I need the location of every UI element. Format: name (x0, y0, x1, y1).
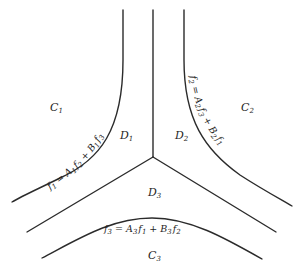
region-diagram: C1 C2 C3 D1 D2 D3 f1 = A1f2 + B1f3 f2 = … (0, 0, 298, 267)
equation-label-f2: f2 = A2f3 + B2f1 (186, 74, 225, 148)
region-label-d1: D1 (119, 129, 133, 143)
equation-label-f1: f1 = A1f2 + B1f3 (44, 133, 107, 192)
region-label-c2: C2 (241, 101, 254, 115)
equation-label-f3: f3 = A3f1 + B3f2 (103, 223, 181, 236)
region-label-d2: D2 (174, 129, 189, 143)
region-label-d3: D3 (147, 186, 162, 200)
boundary-f2-curve (184, 10, 292, 206)
region-label-c1: C1 (50, 101, 63, 115)
region-label-c3: C3 (148, 249, 161, 263)
junction-right-branch (153, 157, 276, 232)
junction-left-branch (27, 157, 153, 232)
